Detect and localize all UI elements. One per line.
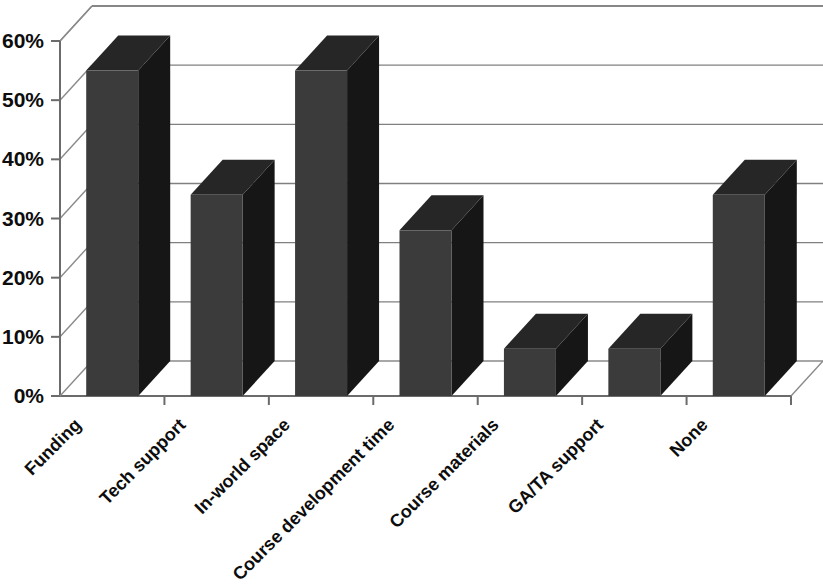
y-tick-label-20%: 20%	[2, 266, 44, 289]
bar-none[interactable]	[713, 160, 797, 396]
y-tick-label-60%: 60%	[2, 29, 44, 52]
bar-front-face	[400, 230, 452, 396]
bar-front-face	[713, 195, 765, 396]
y-tick-label-40%: 40%	[2, 147, 44, 170]
x-axis-label-ga-ta-support: GA/TA support	[504, 415, 607, 518]
column-chart: 0%10%20%30%40%50%60% FundingTech support…	[0, 0, 823, 588]
bar-front-face	[191, 195, 243, 396]
x-axis-label-funding: Funding	[21, 415, 85, 479]
chart-back-wall	[60, 6, 823, 41]
bar-front-face	[86, 71, 138, 396]
bar-front-face	[504, 349, 556, 396]
bar-side-face	[243, 160, 275, 396]
y-tick-label-10%: 10%	[2, 325, 44, 348]
chart-container: 0%10%20%30%40%50%60% FundingTech support…	[0, 0, 823, 588]
gridline-depth-60%	[60, 6, 92, 41]
bar-in-world-space[interactable]	[295, 36, 379, 396]
bar-side-face	[765, 160, 797, 396]
x-axis-label-tech-support: Tech support	[96, 415, 190, 509]
x-axis-ticks	[164, 396, 791, 405]
y-axis: 0%10%20%30%40%50%60%	[2, 29, 60, 407]
x-axis-label-none: None	[666, 415, 712, 461]
bar-side-face	[138, 36, 170, 396]
y-tick-label-30%: 30%	[2, 207, 44, 230]
bar-tech-support[interactable]	[191, 160, 275, 396]
bar-front-face	[295, 71, 347, 396]
bar-front-face	[608, 349, 660, 396]
floor-right-edge	[791, 361, 823, 396]
bar-ga-ta-support[interactable]	[608, 314, 692, 396]
x-axis-label-in-world-space: In-world space	[191, 415, 294, 518]
x-axis-labels: FundingTech supportIn-world spaceCourse …	[21, 415, 712, 585]
bar-funding[interactable]	[86, 36, 170, 396]
bar-series	[86, 36, 797, 396]
y-tick-label-50%: 50%	[2, 88, 44, 111]
bar-course-development-time[interactable]	[400, 195, 484, 396]
x-axis-label-course-materials: Course materials	[385, 415, 502, 532]
bar-side-face	[452, 195, 484, 396]
y-tick-label-0%: 0%	[14, 384, 45, 407]
bar-side-face	[347, 36, 379, 396]
bar-course-materials[interactable]	[504, 314, 588, 396]
